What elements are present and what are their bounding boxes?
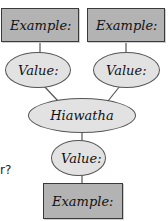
left-value-ellipse: Value: <box>5 52 71 88</box>
top-left-example-box: Example: <box>1 8 79 42</box>
bottom-example-label: Example: <box>52 194 113 209</box>
right-value-ellipse: Value: <box>93 52 160 88</box>
center-person-ellipse: Hiawatha <box>28 98 136 133</box>
top-right-example-label: Example: <box>96 18 157 33</box>
top-right-example-box: Example: <box>87 8 165 42</box>
right-value-label: Value: <box>106 63 147 78</box>
left-value-label: Value: <box>18 63 59 78</box>
side-text-fragment: r? <box>0 163 11 177</box>
bottom-value-ellipse: Value: <box>51 140 106 176</box>
center-person-label: Hiawatha <box>50 108 113 123</box>
diagram-canvas: Example: Example: Value: Value: Hiawatha… <box>0 0 168 221</box>
bottom-example-box: Example: <box>43 183 123 219</box>
bottom-value-label: Value: <box>61 151 102 166</box>
top-left-example-label: Example: <box>10 18 71 33</box>
